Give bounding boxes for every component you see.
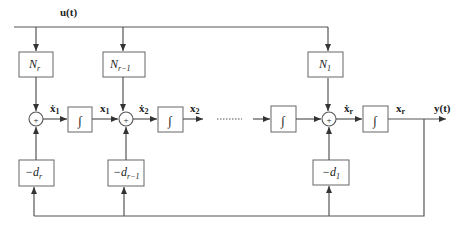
sum-junction-2: + <box>119 112 133 126</box>
input-bus: u(t) <box>14 6 328 51</box>
signal-xdot1: ẋ1 <box>50 102 60 116</box>
integrator-2: ∫ <box>158 107 183 132</box>
svg-text:+: + <box>123 115 128 125</box>
sum-junction-1: + <box>29 112 43 126</box>
block-diagram: u(t) Nr Nr−1 N1 + + + ẋ1 ∫ x1 <box>0 0 462 230</box>
integrator-1: ∫ <box>68 107 92 132</box>
signal-xr: xr <box>396 102 406 116</box>
svg-text:+: + <box>326 115 331 125</box>
integrator-r: ∫ <box>363 106 388 132</box>
sum-junction-r: + <box>322 112 336 126</box>
signal-x2: x2 <box>190 102 200 116</box>
gain-block-Nr: Nr <box>19 52 53 77</box>
feedback-gain-dr-1: −dr−1 <box>108 160 144 186</box>
gain-block-Nr-1: Nr−1 <box>103 52 145 77</box>
feedback-gain-d1: −d1 <box>313 160 349 185</box>
gain-block-N1: N1 <box>308 52 343 77</box>
integrator-mid: ∫ <box>271 106 296 132</box>
output-label: y(t) <box>434 102 451 115</box>
signal-xdotr: ẋr <box>344 102 354 116</box>
svg-text:+: + <box>33 115 38 125</box>
feedback-gain-dr: −dr <box>19 160 54 186</box>
signal-x1: x1 <box>100 102 110 116</box>
input-label: u(t) <box>60 6 77 19</box>
feedback-bus <box>34 119 424 216</box>
signal-xdot2: ẋ2 <box>139 102 149 116</box>
